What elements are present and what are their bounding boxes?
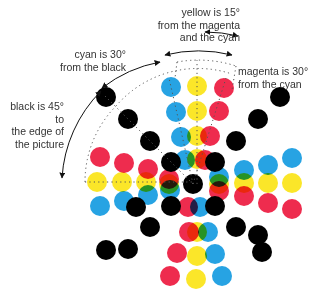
cyan-dot: [282, 148, 302, 168]
annotation-black-line2: the edge of: [0, 125, 64, 138]
cyan-dot: [258, 155, 278, 175]
cyan-dot: [234, 160, 254, 180]
yellow-dot: [258, 173, 278, 193]
annotation-yellow-line3: and the cyan: [126, 31, 240, 44]
annotation-black-line3: the picture: [0, 138, 64, 151]
annotation-magenta-line2: from the cyan: [238, 78, 312, 91]
annotation-black: black is 45° to the edge of the picture: [0, 100, 64, 150]
magenta-dot: [282, 199, 302, 219]
cyan-dot: [212, 266, 232, 286]
magenta-dot: [90, 147, 110, 167]
black-dot: [205, 196, 225, 216]
black-dot: [118, 239, 138, 259]
magenta-dot: [214, 78, 234, 98]
black-dot: [226, 217, 246, 237]
annotation-yellow-line2: from the magenta: [126, 19, 240, 32]
black-dot: [140, 217, 160, 237]
annotation-magenta-line1: magenta is 30°: [238, 65, 312, 78]
black-dot: [270, 87, 290, 107]
yellow-dot: [282, 173, 302, 193]
annotation-magenta: magenta is 30° from the cyan: [238, 65, 312, 90]
annotation-cyan-line1: cyan is 30°: [44, 48, 126, 61]
annotation-black-line1: black is 45° to: [0, 100, 64, 125]
yellow-dot: [186, 269, 206, 289]
magenta-dot: [234, 186, 254, 206]
magenta-dot: [114, 153, 134, 173]
magenta-dot: [179, 222, 199, 242]
magenta-dot: [209, 101, 229, 121]
black-dot: [226, 131, 246, 151]
cyan-dot: [205, 244, 225, 264]
annotation-yellow-line1: yellow is 15°: [126, 6, 240, 19]
cyan-dot: [171, 127, 191, 147]
black-dot: [161, 196, 181, 216]
cyan-dot: [198, 222, 218, 242]
black-dot: [248, 109, 268, 129]
black-dot: [96, 240, 116, 260]
black-dot: [205, 152, 225, 172]
yellow-dot: [187, 246, 207, 266]
black-dot: [248, 225, 268, 245]
magenta-dot: [160, 266, 180, 286]
black-dot: [252, 242, 272, 262]
annotation-cyan: cyan is 30° from the black: [44, 48, 126, 73]
magenta-dot: [159, 169, 179, 189]
black-dot: [96, 87, 116, 107]
cyan-dot: [161, 77, 181, 97]
cyan-dot: [166, 102, 186, 122]
annotation-yellow: yellow is 15° from the magenta and the c…: [126, 6, 240, 44]
cyan-dot: [90, 196, 110, 216]
halftone-dots: [87, 76, 302, 289]
magenta-dot: [258, 193, 278, 213]
magenta-dot: [167, 243, 187, 263]
magenta-dot: [178, 197, 198, 217]
magenta-dot: [138, 159, 158, 179]
black-dot: [126, 197, 146, 217]
annotation-cyan-line2: from the black: [44, 61, 126, 74]
